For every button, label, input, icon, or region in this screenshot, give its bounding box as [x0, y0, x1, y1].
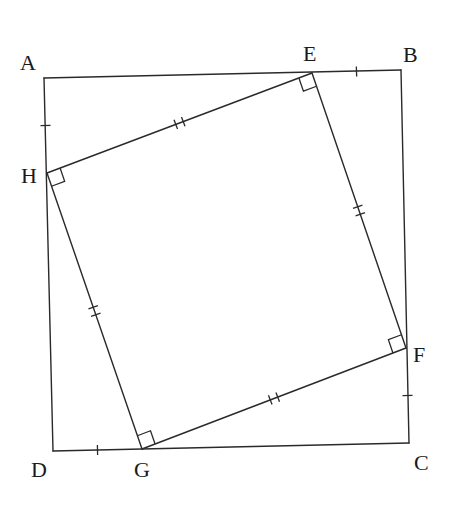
label-h: H — [21, 163, 37, 188]
outer-edge-cd — [53, 443, 409, 451]
label-c: C — [414, 450, 429, 475]
outer-edge-da — [44, 78, 53, 451]
vertex-labels: A B C D E F G H — [20, 41, 429, 482]
inner-square — [47, 73, 406, 449]
label-e: E — [303, 41, 316, 66]
label-g: G — [134, 457, 150, 482]
label-d: D — [31, 457, 47, 482]
tick-marks — [41, 67, 413, 455]
outer-edge-bc — [401, 70, 409, 443]
inner-edge-gh — [47, 173, 142, 449]
outer-square — [44, 70, 409, 451]
label-b: B — [403, 42, 418, 67]
inner-edge-he — [47, 73, 312, 173]
inner-edge-fg — [142, 348, 406, 449]
geometry-diagram: A B C D E F G H — [0, 0, 452, 511]
inner-edge-ef — [312, 73, 406, 348]
label-f: F — [413, 342, 425, 367]
right-angle-markers — [52, 78, 402, 444]
outer-edge-ab — [44, 70, 401, 78]
label-a: A — [20, 50, 36, 75]
